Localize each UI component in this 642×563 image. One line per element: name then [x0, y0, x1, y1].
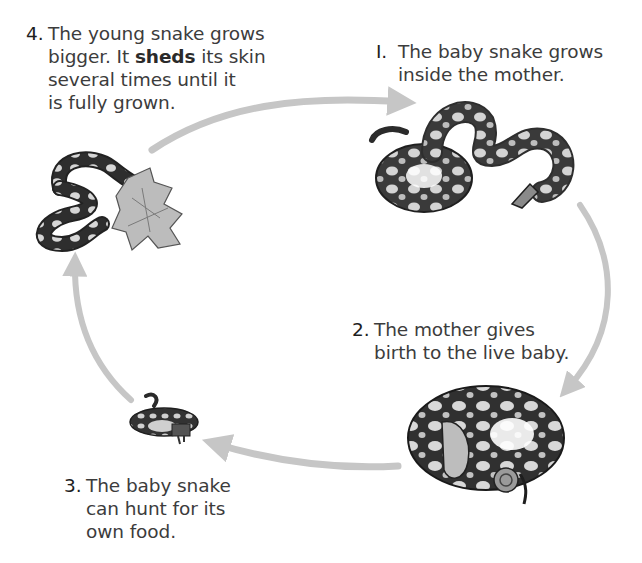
stage-4-line-2-a: bigger. It [48, 46, 135, 67]
stage-1-line-2: inside the mother. [398, 63, 603, 86]
arrow-stage2-to-stage3 [216, 444, 398, 467]
mother-snake-with-baby-icon [402, 378, 572, 508]
baby-snake-eating-icon [124, 392, 208, 452]
keyword-sheds: sheds [135, 46, 195, 67]
stage-4-line-3: several times until it [48, 68, 266, 91]
snake-life-cycle-diagram: 4. The young snake grows bigger. It shed… [0, 0, 642, 563]
stage-4-line-4: is fully grown. [48, 91, 266, 114]
young-snake-shedding-skin-icon [32, 148, 192, 258]
stage-2-number: 2. [352, 318, 369, 341]
arrow-stage1-to-stage2 [568, 205, 608, 388]
stage-4-line-2-b: its skin [195, 46, 265, 67]
stage-3-number: 3. [64, 474, 81, 497]
stage-3-line-2: can hunt for its [86, 497, 231, 520]
stage-4-line-1: The young snake grows [48, 22, 266, 45]
adult-snake-coiled-icon [362, 92, 582, 220]
stage-2-caption: 2. The mother gives birth to the live ba… [352, 318, 569, 364]
stage-3-line-1: The baby snake [86, 474, 231, 497]
stage-2-line-2: birth to the live baby. [374, 341, 569, 364]
stage-4-number: 4. [26, 22, 43, 45]
stage-1-caption: I. The baby snake grows inside the mothe… [376, 40, 603, 86]
stage-4-caption: 4. The young snake grows bigger. It shed… [26, 22, 266, 114]
stage-4-line-2: bigger. It sheds its skin [48, 45, 266, 68]
stage-1-line-1: The baby snake grows [398, 40, 603, 63]
stage-3-line-3: own food. [86, 520, 231, 543]
stage-1-number: I. [376, 40, 387, 63]
arrow-stage3-to-stage4 [75, 264, 131, 400]
stage-2-line-1: The mother gives [374, 318, 569, 341]
stage-3-caption: 3. The baby snake can hunt for its own f… [64, 474, 231, 543]
